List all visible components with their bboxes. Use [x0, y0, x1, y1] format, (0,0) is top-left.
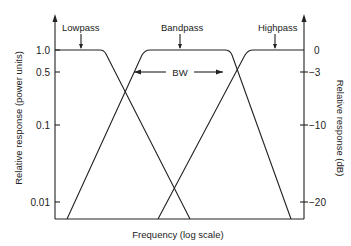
filter-response-figure: 1.0 0.5 0.1 0.01 0 −3 −10 −20 Relative r… [0, 0, 351, 246]
right-tick-label: −3 [309, 67, 321, 78]
left-axis-title: Relative response (power units) [13, 51, 24, 185]
left-axis-arrow-icon [53, 14, 58, 22]
filter-response-plot: 1.0 0.5 0.1 0.01 0 −3 −10 −20 Relative r… [0, 0, 351, 246]
lowpass-pointer-icon [79, 44, 83, 49]
lowpass-label: Lowpass [62, 22, 100, 33]
bw-right-arrow-icon [216, 70, 223, 75]
left-tick-label: 0.1 [36, 120, 50, 131]
right-tick-label: −20 [309, 197, 326, 208]
lowpass-curve [55, 50, 190, 219]
left-tick-label: 0.01 [31, 197, 51, 208]
right-axis-title: Relative response (dB) [335, 80, 346, 177]
x-axis-title: Frequency (log scale) [132, 229, 223, 240]
bandpass-pointer-icon [178, 44, 182, 49]
right-tick-label: 0 [314, 45, 320, 56]
left-ticks: 1.0 0.5 0.1 0.01 [31, 45, 60, 208]
highpass-pointer-icon [273, 44, 277, 49]
right-tick-label: −10 [309, 120, 326, 131]
bandwidth-label: BW [172, 67, 187, 78]
right-axis-arrow-icon [302, 14, 307, 22]
bandpass-label: Bandpass [161, 22, 204, 33]
highpass-label: Highpass [258, 22, 298, 33]
left-tick-label: 0.5 [36, 67, 50, 78]
left-tick-label: 1.0 [36, 45, 50, 56]
